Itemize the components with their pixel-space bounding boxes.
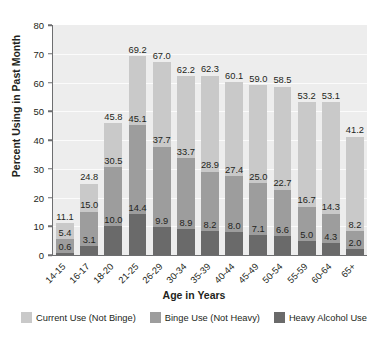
y-axis-tick-label: 60 (0, 77, 44, 88)
bar-segment-current-use (274, 87, 292, 190)
bar-segment-current-use (298, 102, 316, 207)
bar-segment-current-use (153, 62, 171, 146)
value-label-binge-26-29: 37.7 (153, 135, 171, 145)
legend-label: Heavy Alcohol Use (289, 313, 367, 323)
bar-segment-heavy-use (346, 249, 364, 255)
value-label-total-50-54: 58.5 (273, 75, 291, 85)
legend-swatch-icon (21, 312, 32, 323)
bar-segment-heavy-use (298, 241, 316, 255)
value-label-binge-30-34: 33.7 (177, 147, 195, 157)
value-label-heavy-60-64: 4.3 (324, 232, 337, 242)
bar-segment-heavy-use (177, 229, 195, 255)
value-label-heavy-26-29: 9.9 (155, 216, 168, 226)
bar-18-20[interactable] (104, 123, 122, 255)
bar-segment-heavy-use (249, 235, 267, 255)
gridline (53, 54, 367, 55)
bar-26-29[interactable] (153, 62, 171, 255)
alcohol-use-by-age-chart: Percent Using in Past Month 010203040506… (0, 0, 388, 340)
value-label-binge-16-17: 15.0 (80, 200, 98, 210)
legend-item-1[interactable]: Current Use (Not Binge) (21, 312, 136, 323)
plot-area: 11.15.40.624.815.03.145.830.510.069.245.… (52, 25, 367, 256)
legend-swatch-icon (274, 312, 285, 323)
chart-legend: Current Use (Not Binge)Binge Use (Not He… (0, 312, 388, 323)
bar-21-25[interactable] (129, 56, 147, 255)
value-label-heavy-65+: 2.0 (348, 238, 361, 248)
value-label-binge-35-39: 28.9 (201, 160, 219, 170)
y-axis-tick-label: 10 (0, 221, 44, 232)
value-label-total-65+: 41.2 (346, 125, 364, 135)
value-label-binge-21-25: 45.1 (128, 114, 146, 124)
legend-swatch-icon (150, 312, 161, 323)
legend-label: Current Use (Not Binge) (36, 313, 136, 323)
value-label-binge-40-44: 27.4 (225, 165, 243, 175)
bar-segment-heavy-use (153, 227, 171, 255)
bar-segment-heavy-use (201, 231, 219, 255)
value-label-heavy-55-59: 5.0 (300, 230, 313, 240)
value-label-heavy-40-44: 8.0 (228, 221, 241, 231)
y-axis-tick-label: 40 (0, 135, 44, 146)
bar-segment-heavy-use (129, 214, 147, 255)
bar-segment-binge-use (129, 125, 147, 213)
value-label-heavy-21-25: 14.4 (128, 203, 146, 213)
value-label-heavy-35-39: 8.2 (204, 220, 217, 230)
bar-segment-current-use (225, 82, 243, 176)
value-label-total-21-25: 69.2 (128, 45, 146, 55)
value-label-heavy-18-20: 10.0 (104, 215, 122, 225)
value-label-total-60-64: 53.1 (322, 91, 340, 101)
legend-label: Binge Use (Not Heavy) (165, 313, 260, 323)
x-axis-title: Age in Years (0, 289, 388, 301)
value-label-total-14-15: 11.1 (56, 212, 73, 222)
value-label-heavy-45-49: 7.1 (252, 224, 265, 234)
value-label-total-40-44: 60.1 (225, 71, 243, 81)
value-label-total-45-49: 59.0 (249, 74, 267, 84)
bar-segment-current-use (322, 102, 340, 214)
legend-item-3[interactable]: Heavy Alcohol Use (274, 312, 367, 323)
y-axis-tick-label: 20 (0, 192, 44, 203)
y-axis-tick-label: 80 (0, 20, 44, 31)
value-label-binge-50-54: 22.7 (273, 178, 291, 188)
bar-segment-heavy-use (225, 232, 243, 255)
value-label-total-26-29: 67.0 (153, 51, 171, 61)
bar-65+[interactable] (346, 137, 364, 255)
bar-segment-current-use (249, 85, 267, 183)
value-label-total-55-59: 53.2 (298, 91, 316, 101)
y-axis-tick-label: 50 (0, 106, 44, 117)
value-label-binge-14-15: 5.4 (59, 228, 72, 238)
y-axis-tick-label: 70 (0, 48, 44, 59)
value-label-total-30-34: 62.2 (177, 65, 195, 75)
value-label-binge-65+: 8.2 (348, 220, 361, 230)
value-label-binge-60-64: 14.3 (322, 202, 340, 212)
legend-item-2[interactable]: Binge Use (Not Heavy) (150, 312, 260, 323)
y-axis-tick-label: 30 (0, 163, 44, 174)
value-label-total-35-39: 62.3 (201, 64, 219, 74)
bar-segment-heavy-use (56, 253, 74, 255)
bar-segment-heavy-use (80, 246, 98, 255)
bar-segment-current-use (201, 76, 219, 172)
value-label-heavy-14-15: 0.6 (59, 242, 72, 252)
value-label-heavy-50-54: 6.6 (276, 225, 289, 235)
bar-segment-heavy-use (322, 243, 340, 255)
value-label-total-16-17: 24.8 (80, 172, 98, 182)
value-label-binge-18-20: 30.5 (104, 156, 122, 166)
bar-segment-heavy-use (104, 226, 122, 255)
bar-segment-heavy-use (274, 236, 292, 255)
y-axis-tick-label: 0 (0, 250, 44, 261)
value-label-heavy-30-34: 8.9 (179, 218, 192, 228)
value-label-heavy-16-17: 3.1 (83, 235, 96, 245)
value-label-binge-55-59: 16.7 (298, 195, 316, 205)
value-label-total-18-20: 45.8 (104, 112, 122, 122)
bar-segment-current-use (346, 137, 364, 232)
value-label-binge-45-49: 25.0 (249, 172, 267, 182)
